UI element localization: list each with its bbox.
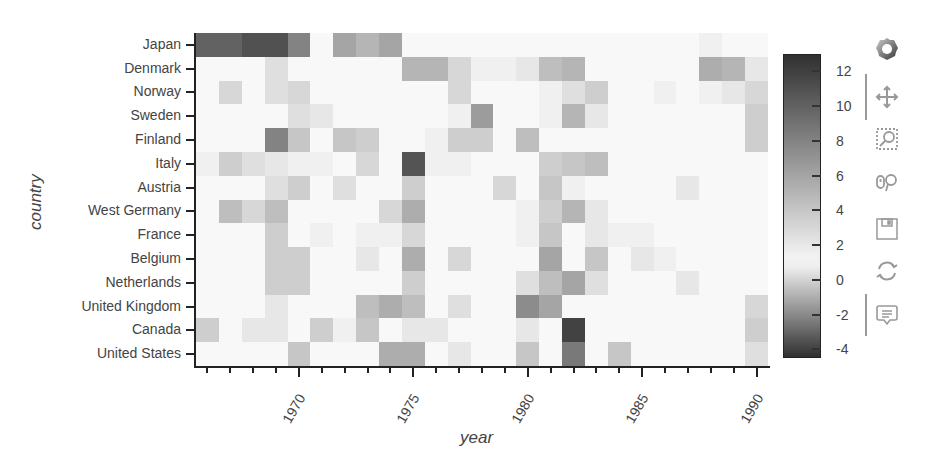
heatmap-cell[interactable]	[310, 295, 333, 319]
heatmap-cell[interactable]	[310, 176, 333, 200]
heatmap-cell[interactable]	[402, 57, 425, 81]
heatmap-cell[interactable]	[448, 223, 471, 247]
heatmap-cell[interactable]	[631, 295, 654, 319]
heatmap-cell[interactable]	[585, 295, 608, 319]
heatmap-cell[interactable]	[333, 295, 356, 319]
heatmap-cell[interactable]	[310, 271, 333, 295]
heatmap-cell[interactable]	[196, 318, 219, 342]
heatmap-cell[interactable]	[516, 295, 539, 319]
heatmap-cell[interactable]	[333, 57, 356, 81]
heatmap-cell[interactable]	[585, 128, 608, 152]
heatmap-cell[interactable]	[333, 81, 356, 105]
heatmap-cell[interactable]	[631, 200, 654, 224]
heatmap-cell[interactable]	[356, 104, 379, 128]
heatmap-cell[interactable]	[242, 81, 265, 105]
heatmap-cell[interactable]	[265, 271, 288, 295]
heatmap-cell[interactable]	[448, 247, 471, 271]
heatmap-cell[interactable]	[676, 152, 699, 176]
reset-icon[interactable]	[874, 258, 900, 284]
heatmap-cell[interactable]	[448, 342, 471, 366]
heatmap-cell[interactable]	[608, 200, 631, 224]
heatmap-cell[interactable]	[379, 342, 402, 366]
heatmap-cell[interactable]	[310, 128, 333, 152]
heatmap-cell[interactable]	[745, 295, 768, 319]
heatmap-cell[interactable]	[242, 33, 265, 57]
heatmap-cell[interactable]	[745, 200, 768, 224]
heatmap-cell[interactable]	[471, 271, 494, 295]
heatmap-cell[interactable]	[196, 176, 219, 200]
heatmap-cell[interactable]	[539, 271, 562, 295]
heatmap-cell[interactable]	[402, 33, 425, 57]
heatmap-cell[interactable]	[722, 152, 745, 176]
heatmap-cell[interactable]	[516, 57, 539, 81]
heatmap-cell[interactable]	[562, 342, 585, 366]
heatmap-cell[interactable]	[676, 176, 699, 200]
heatmap-cell[interactable]	[608, 152, 631, 176]
heatmap-cell[interactable]	[471, 33, 494, 57]
heatmap-cell[interactable]	[493, 247, 516, 271]
pan-icon[interactable]	[874, 84, 900, 110]
heatmap-cell[interactable]	[493, 318, 516, 342]
heatmap-cell[interactable]	[631, 223, 654, 247]
heatmap-cell[interactable]	[745, 57, 768, 81]
heatmap-cell[interactable]	[288, 152, 311, 176]
heatmap-cell[interactable]	[699, 57, 722, 81]
heatmap-cell[interactable]	[562, 200, 585, 224]
heatmap-cell[interactable]	[631, 152, 654, 176]
heatmap-cell[interactable]	[654, 247, 677, 271]
heatmap-cell[interactable]	[448, 33, 471, 57]
heatmap-cell[interactable]	[471, 104, 494, 128]
heatmap-cell[interactable]	[288, 33, 311, 57]
heatmap-cell[interactable]	[585, 271, 608, 295]
heatmap-cell[interactable]	[722, 223, 745, 247]
heatmap-cell[interactable]	[471, 152, 494, 176]
heatmap-cell[interactable]	[699, 247, 722, 271]
heatmap-cell[interactable]	[745, 342, 768, 366]
heatmap-cell[interactable]	[745, 176, 768, 200]
heatmap-cell[interactable]	[333, 33, 356, 57]
heatmap-cell[interactable]	[402, 247, 425, 271]
heatmap-cell[interactable]	[471, 176, 494, 200]
heatmap-cell[interactable]	[654, 128, 677, 152]
heatmap-cell[interactable]	[379, 318, 402, 342]
heatmap-cell[interactable]	[288, 176, 311, 200]
heatmap-cell[interactable]	[242, 176, 265, 200]
heatmap-cell[interactable]	[585, 342, 608, 366]
heatmap-cell[interactable]	[493, 104, 516, 128]
heatmap-cell[interactable]	[654, 318, 677, 342]
heatmap-cell[interactable]	[265, 247, 288, 271]
heatmap-cell[interactable]	[333, 247, 356, 271]
heatmap-cell[interactable]	[654, 271, 677, 295]
heatmap-cell[interactable]	[585, 176, 608, 200]
heatmap-cell[interactable]	[196, 33, 219, 57]
heatmap-cell[interactable]	[585, 247, 608, 271]
heatmap-cell[interactable]	[562, 57, 585, 81]
heatmap-cell[interactable]	[425, 176, 448, 200]
heatmap-cell[interactable]	[676, 128, 699, 152]
heatmap-cell[interactable]	[722, 128, 745, 152]
heatmap-cell[interactable]	[722, 176, 745, 200]
heatmap-cell[interactable]	[333, 176, 356, 200]
heatmap-cell[interactable]	[219, 57, 242, 81]
heatmap-cell[interactable]	[654, 104, 677, 128]
heatmap-cell[interactable]	[196, 271, 219, 295]
heatmap-cell[interactable]	[310, 200, 333, 224]
heatmap-cell[interactable]	[402, 295, 425, 319]
heatmap-cell[interactable]	[516, 271, 539, 295]
heatmap-cell[interactable]	[242, 104, 265, 128]
heatmap-cell[interactable]	[493, 128, 516, 152]
heatmap-cell[interactable]	[699, 271, 722, 295]
heatmap-cell[interactable]	[676, 104, 699, 128]
heatmap-cell[interactable]	[379, 176, 402, 200]
heatmap-cell[interactable]	[379, 152, 402, 176]
heatmap-cell[interactable]	[608, 318, 631, 342]
heatmap-cell[interactable]	[722, 295, 745, 319]
heatmap-cell[interactable]	[516, 152, 539, 176]
heatmap-cell[interactable]	[608, 128, 631, 152]
heatmap-cell[interactable]	[676, 342, 699, 366]
heatmap-cell[interactable]	[722, 200, 745, 224]
heatmap-cell[interactable]	[493, 223, 516, 247]
save-icon[interactable]	[874, 216, 900, 242]
heatmap-cell[interactable]	[288, 128, 311, 152]
heatmap-cell[interactable]	[310, 33, 333, 57]
